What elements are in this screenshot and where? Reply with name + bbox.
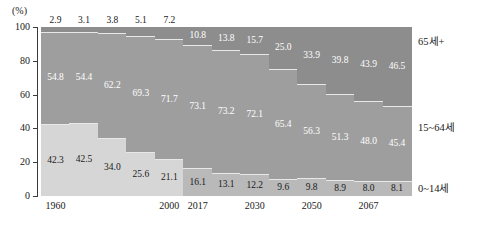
segment-value-young: 9.8 <box>306 183 318 193</box>
y-axis-tick <box>33 95 37 96</box>
bar[interactable]: 21.171.77.2 <box>155 27 184 196</box>
segment-value-young: 16.1 <box>189 178 206 188</box>
y-axis-tick <box>33 196 37 197</box>
bar-segment-old: 43.9 <box>354 27 383 101</box>
segment-value-working: 54.4 <box>76 73 93 83</box>
y-axis-tick-label: 20 <box>2 156 30 167</box>
bar-segment-old: 10.8 <box>183 27 212 45</box>
bar-segment-working: 51.3 <box>326 94 355 181</box>
segment-value-old: 5.1 <box>135 16 147 26</box>
bar-segment-working: 73.1 <box>183 45 212 169</box>
bar-segment-young: 8.0 <box>354 182 383 196</box>
bar-segment-old: 5.1 <box>126 27 155 36</box>
bar-segment-old: 15.7 <box>240 27 269 54</box>
segment-value-old: 2.9 <box>50 16 62 26</box>
legend-label-working: 15~64세 <box>418 119 455 134</box>
bar-segment-young: 8.9 <box>326 181 355 196</box>
segment-value-young: 42.5 <box>76 155 93 165</box>
bar[interactable]: 42.554.43.1 <box>69 27 98 196</box>
segment-value-young: 13.1 <box>218 180 235 190</box>
segment-value-young: 8.9 <box>334 184 346 194</box>
segment-value-old: 43.9 <box>360 60 377 70</box>
bar[interactable]: 8.951.339.8 <box>326 27 355 196</box>
bar[interactable]: 12.272.115.7 <box>240 27 269 196</box>
bar-segment-old: 33.9 <box>297 27 326 84</box>
segment-value-working: 45.4 <box>389 139 406 149</box>
segment-value-working: 73.1 <box>189 102 206 112</box>
segment-value-old: 13.8 <box>218 34 235 44</box>
x-axis-tick-label: 2017 <box>178 200 218 211</box>
bar-segment-young: 13.1 <box>212 174 241 196</box>
x-axis-tick-label: 2050 <box>292 200 332 211</box>
bar-segment-working: 72.1 <box>240 54 269 176</box>
bar[interactable]: 34.062.23.8 <box>98 27 127 196</box>
bar-segment-young: 34.0 <box>98 139 127 196</box>
y-axis-line <box>37 27 38 197</box>
bar-segment-young: 42.3 <box>41 125 70 196</box>
segment-value-working: 69.3 <box>133 89 150 99</box>
bar-segment-young: 42.5 <box>69 124 98 196</box>
segment-value-old: 15.7 <box>246 36 263 46</box>
bar-segment-young: 9.6 <box>269 180 298 196</box>
y-axis-tick-label: 60 <box>2 89 30 100</box>
y-axis-unit-label: (%) <box>12 5 27 16</box>
bar[interactable]: 25.669.35.1 <box>126 27 155 196</box>
bar-segment-working: 48.0 <box>354 101 383 182</box>
bar[interactable]: 8.048.043.9 <box>354 27 383 196</box>
segment-value-working: 72.1 <box>246 110 263 120</box>
segment-value-young: 8.1 <box>391 184 403 194</box>
bar-segment-old: 2.9 <box>41 27 70 32</box>
bar-segment-young: 16.1 <box>183 169 212 196</box>
bar-segment-young: 8.1 <box>383 182 412 196</box>
bar-segment-young: 9.8 <box>297 179 326 196</box>
legend-label-old: 65세+ <box>418 33 444 48</box>
segment-value-young: 12.2 <box>246 181 263 191</box>
bar-segment-working: 56.3 <box>297 84 326 179</box>
bar[interactable]: 16.173.110.8 <box>183 27 212 196</box>
segment-value-old: 10.8 <box>189 31 206 41</box>
x-axis-tick-label: 1960 <box>36 200 76 211</box>
segment-value-working: 73.2 <box>218 107 235 117</box>
y-axis-tick <box>33 162 37 163</box>
bar-segment-young: 21.1 <box>155 160 184 196</box>
bar-segment-working: 71.7 <box>155 39 184 160</box>
x-axis-tick-label: 2067 <box>349 200 389 211</box>
y-axis-tick <box>33 27 37 28</box>
stacked-bar-chart: (%) 020406080100 42.354.82.942.554.43.13… <box>0 0 499 234</box>
bar[interactable]: 9.856.333.9 <box>297 27 326 196</box>
bar[interactable]: 13.173.213.8 <box>212 27 241 196</box>
y-axis-tick <box>33 61 37 62</box>
bar-segment-working: 54.4 <box>69 32 98 124</box>
bar[interactable]: 9.665.425.0 <box>269 27 298 196</box>
y-axis-tick-label: 0 <box>2 190 30 201</box>
segment-value-old: 33.9 <box>303 51 320 61</box>
segment-value-young: 42.3 <box>47 156 64 166</box>
segment-value-young: 25.6 <box>133 170 150 180</box>
segment-value-old: 3.1 <box>78 16 90 26</box>
x-axis-tick-label: 2030 <box>235 200 275 211</box>
segment-value-working: 51.3 <box>332 133 349 143</box>
bar-segment-old: 46.5 <box>383 27 412 106</box>
plot-area: 42.354.82.942.554.43.134.062.23.825.669.… <box>41 27 411 196</box>
bar-segment-young: 25.6 <box>126 153 155 196</box>
y-axis-tick-label: 40 <box>2 122 30 133</box>
segment-value-working: 54.8 <box>47 73 64 83</box>
bar-segment-working: 65.4 <box>269 69 298 180</box>
bar-segment-working: 69.3 <box>126 36 155 153</box>
segment-value-working: 56.3 <box>303 127 320 137</box>
bar-segment-old: 3.1 <box>69 27 98 32</box>
segment-value-old: 39.8 <box>332 56 349 66</box>
segment-value-old: 25.0 <box>275 43 292 53</box>
bar-segment-working: 45.4 <box>383 106 412 183</box>
bar-segment-old: 3.8 <box>98 27 127 33</box>
legend-label-young: 0~14세 <box>418 180 449 195</box>
bar-segment-young: 12.2 <box>240 175 269 196</box>
bar[interactable]: 8.145.446.5 <box>383 27 412 196</box>
y-axis-tick <box>33 128 37 129</box>
bar-segment-old: 25.0 <box>269 27 298 69</box>
segment-value-old: 7.2 <box>163 16 175 26</box>
bar[interactable]: 42.354.82.9 <box>41 27 70 196</box>
segment-value-old: 46.5 <box>389 62 406 72</box>
segment-value-working: 48.0 <box>360 137 377 147</box>
segment-value-working: 65.4 <box>275 120 292 130</box>
